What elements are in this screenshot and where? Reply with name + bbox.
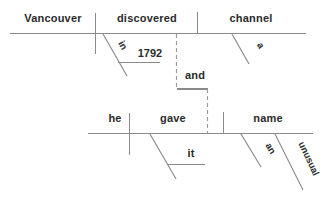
lower-adjective-label: unusual bbox=[296, 140, 321, 178]
upper-prep-object-label: 1792 bbox=[138, 47, 162, 59]
upper-verb-label: discovered bbox=[117, 12, 177, 24]
sentence-diagram-canvas: Vancouver discovered channel in 1792 a a… bbox=[0, 0, 329, 199]
upper-object-label: channel bbox=[230, 12, 273, 24]
upper-subject-label: Vancouver bbox=[24, 12, 82, 24]
lower-subject-label: he bbox=[108, 112, 121, 124]
upper-article-label: a bbox=[255, 40, 268, 51]
conjunction-label: and bbox=[185, 69, 205, 81]
upper-preposition-label: in bbox=[116, 39, 130, 52]
diagram-svg: Vancouver discovered channel in 1792 a a… bbox=[0, 0, 329, 199]
lower-indirect-object-slant bbox=[150, 134, 176, 179]
lower-indirect-object-label: it bbox=[187, 147, 194, 159]
lower-article-label: an bbox=[263, 141, 278, 156]
lower-verb-label: gave bbox=[160, 112, 186, 124]
upper-article-slant bbox=[232, 34, 249, 64]
lower-object-label: name bbox=[253, 112, 283, 124]
lower-article-slant bbox=[241, 134, 261, 167]
